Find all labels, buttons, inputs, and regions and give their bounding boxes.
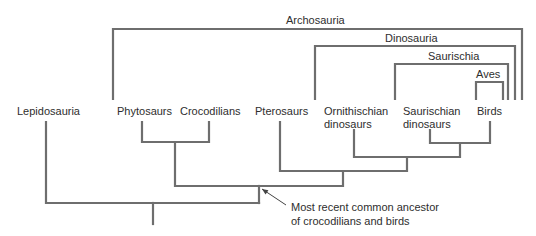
taxon-label-pterosaurs: Pterosaurs <box>255 105 309 117</box>
taxon-label-saurischian: Saurischiandinosaurs <box>403 105 460 130</box>
annotation-text: Most recent common ancestorof crocodilia… <box>291 201 439 227</box>
clade-label-dinosauria: Dinosauria <box>385 32 438 44</box>
taxon-label-phytosaurs: Phytosaurs <box>117 105 173 117</box>
ancestor-annotation: Most recent common ancestorof crocodilia… <box>262 189 439 227</box>
clade-bracket-aves <box>476 82 503 100</box>
arrowhead-icon <box>262 189 268 194</box>
taxon-label-birds: Birds <box>477 105 503 117</box>
branch-croc-line-stem <box>175 142 259 186</box>
taxon-labels: LepidosauriaPhytosaursCrocodiliansPteros… <box>17 105 503 130</box>
clade-label-saurischia: Saurischia <box>428 50 480 62</box>
branch-phytosaur-croc-join <box>142 122 209 142</box>
clade-label-archosauria: Archosauria <box>286 14 346 26</box>
branch-root-join <box>46 122 259 203</box>
taxon-label-lepidosauria: Lepidosauria <box>17 105 81 117</box>
branch-archosaur-join <box>259 171 343 186</box>
taxon-label-ornithischian: Ornithischiandinosaurs <box>324 105 388 130</box>
clade-label-aves: Aves <box>476 68 501 80</box>
taxon-label-crocodilians: Crocodilians <box>180 105 241 117</box>
cladogram-diagram: ArchosauriaDinosauriaSaurischiaAves Lepi… <box>0 0 536 236</box>
clade-brackets <box>113 29 522 100</box>
